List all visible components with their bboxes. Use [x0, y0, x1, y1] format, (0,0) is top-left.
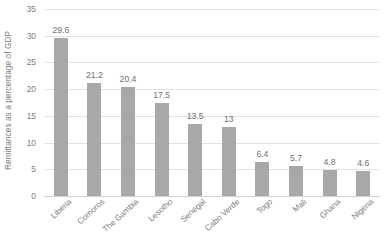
bar-value-label: 29.6 — [52, 26, 69, 35]
y-axis-tick-label: 10 — [14, 138, 36, 146]
plot-area: 29.621.220.417.513.5136.45.74.84.6 — [44, 9, 380, 196]
bar-value-label: 13.5 — [187, 112, 204, 121]
bar-slot: 29.6 — [44, 9, 78, 196]
bar-value-label: 20.4 — [120, 75, 137, 84]
y-axis-tick-label: 30 — [14, 32, 36, 40]
y-axis-tick-label: 15 — [14, 112, 36, 120]
y-axis-tick-label: 25 — [14, 58, 36, 66]
bars-layer: 29.621.220.417.513.5136.45.74.84.6 — [44, 9, 380, 196]
x-axis-label: Ghana — [318, 198, 342, 221]
y-axis-tick-labels: 05101520253035 — [18, 0, 40, 200]
bar-slot: 13 — [212, 9, 246, 196]
bar[interactable] — [323, 170, 337, 196]
bar-value-label: 5.7 — [290, 154, 302, 163]
bar-slot: 4.6 — [346, 9, 380, 196]
bar[interactable] — [289, 166, 303, 196]
x-axis-label: The Gambia — [102, 198, 141, 234]
bar[interactable] — [356, 171, 370, 196]
bar-slot: 20.4 — [111, 9, 145, 196]
bar-slot: 13.5 — [178, 9, 212, 196]
bar-slot: 17.5 — [145, 9, 179, 196]
x-axis-label: Togo — [256, 198, 275, 216]
bar-slot: 5.7 — [279, 9, 313, 196]
y-axis-tick-label: 0 — [14, 192, 36, 200]
bar[interactable] — [54, 38, 68, 196]
x-axis-category-labels: LiberiaComorosThe GambiaLesothoSenegalCa… — [44, 198, 380, 245]
bar-slot: 4.8 — [313, 9, 347, 196]
bar-value-label: 6.4 — [256, 150, 268, 159]
bar-value-label: 17.5 — [153, 91, 170, 100]
bar[interactable] — [87, 83, 101, 196]
y-axis-tick-label: 20 — [14, 85, 36, 93]
bar[interactable] — [155, 103, 169, 197]
x-axis-label: Nigeria — [351, 198, 376, 221]
bar-chart: Remittances as a percentage of GDP 05101… — [0, 0, 386, 245]
axis-baseline — [44, 196, 380, 197]
y-axis-title-text: Remittances as a percentage of GDP — [5, 30, 14, 169]
bar-slot: 6.4 — [246, 9, 280, 196]
bar-value-label: 21.2 — [86, 71, 103, 80]
bar[interactable] — [121, 87, 135, 196]
y-axis-tick-label: 35 — [14, 5, 36, 13]
x-axis-label: Comoros — [77, 198, 107, 226]
bar-value-label: 4.6 — [357, 159, 369, 168]
bar[interactable] — [222, 127, 236, 196]
bar[interactable] — [188, 124, 202, 196]
x-axis-label: Liberia — [50, 198, 74, 221]
x-axis-label: Mali — [292, 198, 309, 214]
x-axis-label: Lesotho — [147, 198, 174, 224]
x-axis-label: Senegal — [180, 198, 208, 224]
x-axis-label: Cabo Verde — [204, 198, 242, 233]
bar-value-label: 13 — [224, 115, 234, 124]
y-axis-tick-label: 5 — [14, 165, 36, 173]
bar-slot: 21.2 — [78, 9, 112, 196]
bar-value-label: 4.8 — [324, 158, 336, 167]
bar[interactable] — [255, 162, 269, 196]
